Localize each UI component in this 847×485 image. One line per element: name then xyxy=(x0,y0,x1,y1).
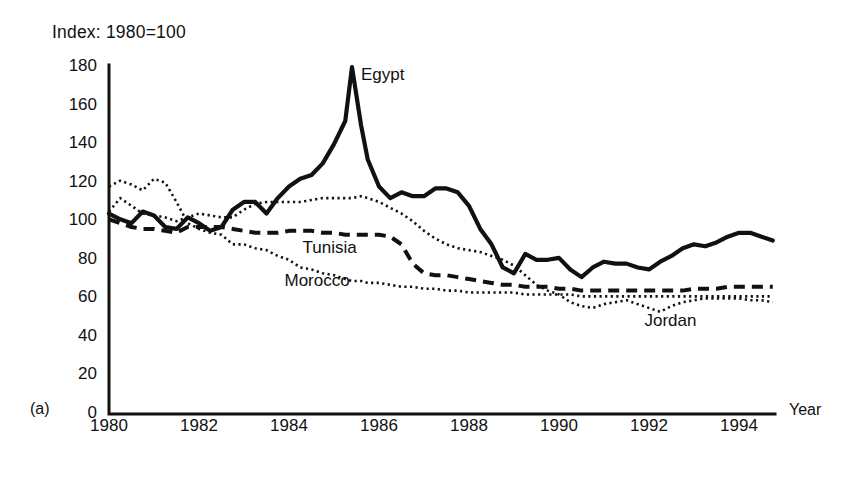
series-line-morocco xyxy=(109,179,773,297)
axis-lines xyxy=(109,65,775,414)
series-line-egypt xyxy=(109,67,773,277)
plot-area xyxy=(0,0,847,485)
line-chart-figure: Index: 1980=100 (a) Year 180160140120100… xyxy=(0,0,847,485)
